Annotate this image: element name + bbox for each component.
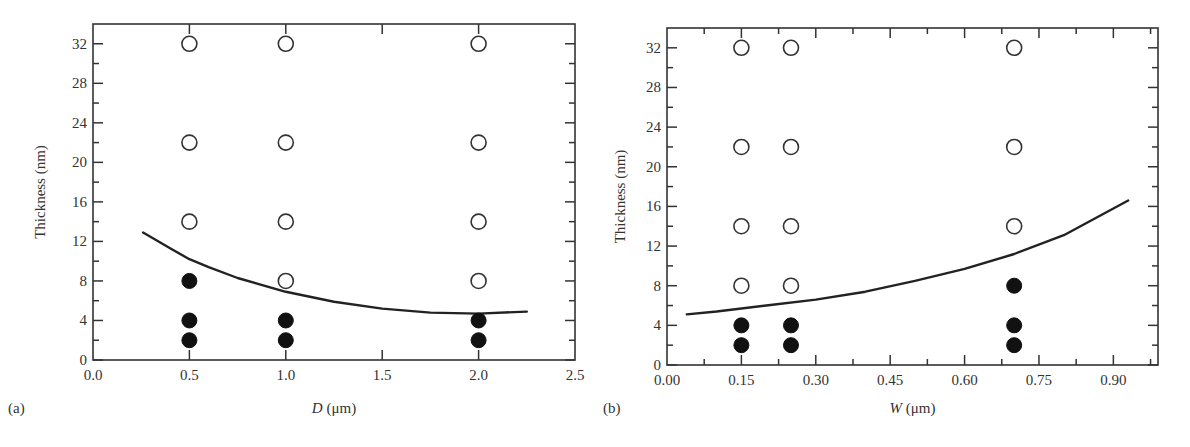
boundary-curve bbox=[143, 233, 527, 314]
y-tick-label: 16 bbox=[646, 198, 662, 214]
open-circle-marker bbox=[182, 36, 197, 51]
y-axis-title: Thickness (nm) bbox=[32, 145, 49, 239]
x-tick-label: 1.0 bbox=[276, 367, 295, 383]
open-circle-marker bbox=[278, 135, 293, 150]
filled-circle-marker bbox=[734, 318, 749, 333]
filled-circle-marker bbox=[278, 333, 293, 348]
x-tick-label: 0.0 bbox=[84, 367, 103, 383]
x-tick-label: 0.15 bbox=[728, 372, 754, 388]
figure: 0481216202428320.00.51.01.52.02.5Thickne… bbox=[0, 0, 1190, 447]
y-tick-label: 28 bbox=[72, 75, 87, 91]
y-tick-label: 16 bbox=[72, 194, 88, 210]
open-circle-marker bbox=[734, 139, 749, 154]
open-circle-marker bbox=[471, 214, 486, 229]
open-circle-marker bbox=[182, 135, 197, 150]
filled-circle-marker bbox=[278, 313, 293, 328]
x-tick-label: 2.0 bbox=[469, 367, 488, 383]
x-tick-label: 0.90 bbox=[1100, 372, 1126, 388]
x-tick-label: 0.75 bbox=[1026, 372, 1052, 388]
x-tick-label: 0.30 bbox=[803, 372, 829, 388]
x-tick-label: 1.5 bbox=[373, 367, 392, 383]
x-tick-label: 2.5 bbox=[566, 367, 585, 383]
y-tick-label: 20 bbox=[646, 159, 661, 175]
filled-circle-marker bbox=[734, 338, 749, 353]
x-axis-title: D (μm) bbox=[311, 400, 356, 417]
open-circle-marker bbox=[783, 219, 798, 234]
open-circle-marker bbox=[471, 36, 486, 51]
x-tick-label: 0.45 bbox=[877, 372, 903, 388]
open-circle-marker bbox=[783, 139, 798, 154]
plot-frame bbox=[93, 24, 575, 360]
y-tick-label: 4 bbox=[80, 312, 88, 328]
filled-circle-marker bbox=[1007, 338, 1022, 353]
y-tick-label: 28 bbox=[646, 79, 661, 95]
y-tick-label: 0 bbox=[80, 352, 88, 368]
y-axis-title: Thickness (nm) bbox=[612, 150, 629, 244]
open-circle-marker bbox=[278, 273, 293, 288]
boundary-curve bbox=[687, 201, 1128, 315]
y-tick-label: 32 bbox=[72, 36, 87, 52]
y-tick-label: 4 bbox=[654, 317, 662, 333]
y-tick-label: 12 bbox=[72, 233, 87, 249]
open-circle-marker bbox=[182, 214, 197, 229]
filled-circle-marker bbox=[783, 338, 798, 353]
filled-circle-marker bbox=[182, 333, 197, 348]
y-tick-label: 24 bbox=[646, 119, 662, 135]
open-circle-marker bbox=[1007, 139, 1022, 154]
panel-label: (a) bbox=[8, 400, 25, 417]
filled-circle-marker bbox=[471, 333, 486, 348]
filled-circle-marker bbox=[471, 313, 486, 328]
x-tick-label: 0.5 bbox=[180, 367, 199, 383]
filled-circle-marker bbox=[1007, 318, 1022, 333]
filled-circle-marker bbox=[182, 273, 197, 288]
open-circle-marker bbox=[734, 40, 749, 55]
y-tick-label: 8 bbox=[654, 278, 662, 294]
y-tick-label: 0 bbox=[654, 357, 662, 373]
chart-panel-b: 0481216202428320.000.150.300.450.600.750… bbox=[603, 28, 1158, 417]
chart-panel-a: 0481216202428320.00.51.01.52.02.5Thickne… bbox=[8, 24, 584, 417]
y-tick-label: 32 bbox=[646, 40, 661, 56]
filled-circle-marker bbox=[182, 313, 197, 328]
x-tick-label: 0.00 bbox=[654, 372, 680, 388]
open-circle-marker bbox=[471, 273, 486, 288]
x-tick-label: 0.60 bbox=[951, 372, 977, 388]
y-tick-label: 12 bbox=[646, 238, 661, 254]
open-circle-marker bbox=[471, 135, 486, 150]
y-tick-label: 24 bbox=[72, 115, 88, 131]
filled-circle-marker bbox=[1007, 278, 1022, 293]
plot-frame bbox=[667, 28, 1158, 365]
y-tick-label: 20 bbox=[72, 154, 87, 170]
x-axis-title: W (μm) bbox=[890, 400, 936, 417]
open-circle-marker bbox=[278, 36, 293, 51]
panel-label: (b) bbox=[603, 400, 621, 417]
open-circle-marker bbox=[1007, 219, 1022, 234]
open-circle-marker bbox=[734, 278, 749, 293]
open-circle-marker bbox=[1007, 40, 1022, 55]
y-tick-label: 8 bbox=[80, 273, 88, 289]
filled-circle-marker bbox=[783, 318, 798, 333]
open-circle-marker bbox=[278, 214, 293, 229]
open-circle-marker bbox=[783, 278, 798, 293]
open-circle-marker bbox=[783, 40, 798, 55]
open-circle-marker bbox=[734, 219, 749, 234]
